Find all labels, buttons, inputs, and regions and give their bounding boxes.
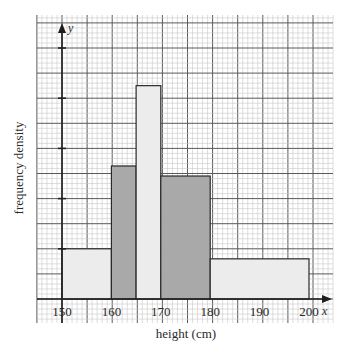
x-axis-arrow-icon xyxy=(322,295,332,303)
x-tick-label: 190 xyxy=(250,304,270,319)
x-tick-label: 160 xyxy=(102,304,122,319)
x-tick-label: 170 xyxy=(151,304,171,319)
y-axis-letter: y xyxy=(67,21,74,35)
histogram-bar-180-200 xyxy=(210,259,309,299)
histogram-bar-165-170 xyxy=(136,86,161,299)
histogram-chart: y x 150160170180190200 height (cm) frequ… xyxy=(0,0,348,354)
x-tick-label: 200 xyxy=(299,304,319,319)
histogram-bar-150-160 xyxy=(62,249,111,299)
x-axis-title: height (cm) xyxy=(156,326,216,341)
histogram-bar-170-180 xyxy=(161,176,210,299)
x-tick-label: 180 xyxy=(200,304,220,319)
histogram-bars xyxy=(62,86,309,299)
x-tick-label: 150 xyxy=(52,304,72,319)
x-axis-letter: x xyxy=(321,304,328,318)
y-axis-title: frequency density xyxy=(11,121,26,214)
histogram-bar-160-165 xyxy=(111,166,136,299)
